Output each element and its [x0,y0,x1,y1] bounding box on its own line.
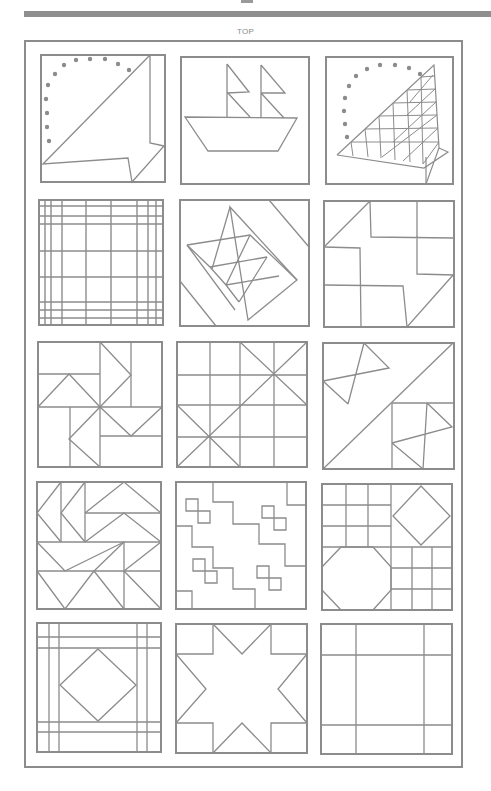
block-flying-geese [36,481,163,610]
block-triangle-lattice [325,56,455,186]
block-folded-corner [40,54,166,184]
block-diamond-striped-border [36,622,163,755]
block-nine-patch-diamond-octagon [321,483,453,613]
title-fragment [241,0,253,3]
block-diagonal-bowties [322,342,455,470]
block-four-by-four-diagonals [176,341,309,469]
block-eight-point-star [175,623,308,756]
block-pinwheel-star [323,200,455,329]
block-nine-patch-frame [320,623,453,756]
top-label: TOP [0,27,491,36]
block-pinwheel-rectangles [37,341,164,469]
block-staircase-four-patch [175,481,308,611]
header-rule [24,11,491,17]
block-sailboat [180,56,310,186]
block-diamond-lattice [179,199,310,328]
block-plaid [38,199,164,326]
